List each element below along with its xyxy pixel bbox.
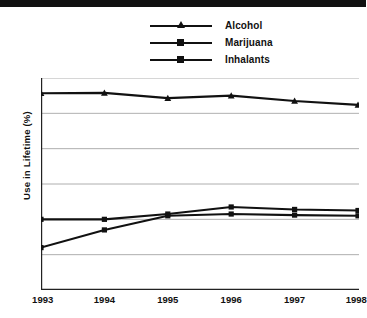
legend-label-marijuana: Marijuana	[225, 37, 273, 48]
plot-svg	[41, 78, 359, 290]
data-point-marker-square	[165, 213, 170, 218]
legend-key-alcohol	[150, 20, 212, 32]
x-axis-tick-label: 1996	[221, 294, 242, 305]
data-point-marker-square	[41, 245, 44, 250]
data-point-marker-square	[229, 211, 234, 216]
x-axis-tick-label: 1994	[94, 294, 115, 305]
x-axis-tick-label: 1995	[157, 294, 178, 305]
data-point-marker-square	[102, 217, 107, 222]
data-point-marker-square	[102, 227, 107, 232]
x-axis-tick-labels: 199319941995199619971998	[41, 294, 359, 310]
square-marker-icon	[177, 56, 184, 63]
triangle-marker-icon	[177, 21, 185, 28]
legend-label-inhalants: Inhalants	[225, 54, 270, 65]
data-point-marker-square	[292, 212, 297, 217]
top-black-bar	[0, 0, 366, 7]
plot-area	[41, 78, 359, 290]
square-marker-icon	[177, 39, 184, 46]
data-point-marker-square	[355, 208, 359, 213]
legend-key-inhalants	[150, 54, 212, 66]
data-point-marker-square	[355, 213, 359, 218]
legend-label-alcohol: Alcohol	[225, 20, 262, 31]
series-line-alcohol	[41, 93, 358, 105]
x-axis-tick-label: 1993	[32, 294, 53, 305]
legend-item-alcohol: Alcohol	[150, 17, 360, 34]
data-point-marker-square	[229, 204, 234, 209]
chart-legend: Alcohol Marijuana Inhalants	[150, 17, 360, 68]
data-point-marker-square	[292, 207, 297, 212]
data-point-marker-square	[41, 217, 44, 222]
y-axis-title: Use in Lifetime (%)	[21, 86, 32, 226]
x-axis-tick-label: 1998	[346, 294, 367, 305]
legend-item-marijuana: Marijuana	[150, 34, 360, 51]
legend-key-marijuana	[150, 37, 212, 49]
series-line-marijuana	[41, 207, 358, 219]
legend-item-inhalants: Inhalants	[150, 51, 360, 68]
x-axis-tick-label: 1997	[284, 294, 305, 305]
